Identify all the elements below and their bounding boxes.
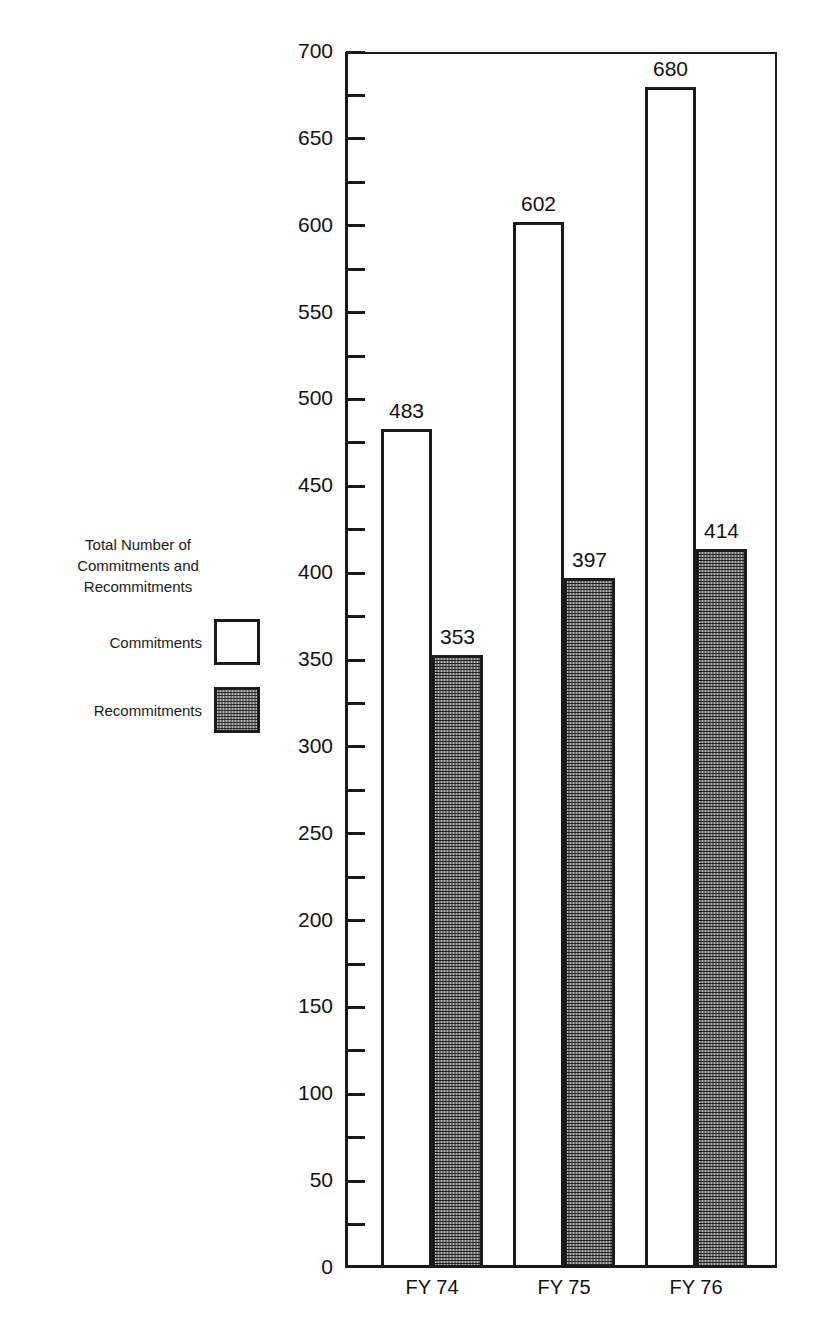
x-axis: FY 74FY 75FY 76 <box>0 0 823 1322</box>
x-axis-label-fy-76: FY 76 <box>615 1276 777 1299</box>
